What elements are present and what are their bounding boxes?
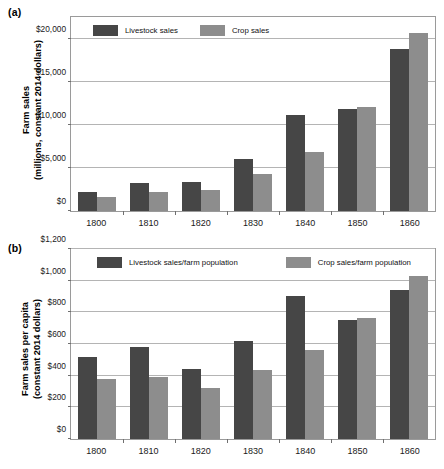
panel-b-y-axis-title-line2: (constant 2014 dollars): [31, 254, 43, 444]
panel-a-x-axis-labels: 1800181018201830184018501860: [70, 218, 436, 228]
legend-item-crop[interactable]: Crop sales/farm population: [286, 257, 411, 268]
legend-swatch-icon: [286, 257, 311, 268]
bar-crop-1860[interactable]: [409, 33, 428, 211]
x-axis-tick-label: 1810: [122, 218, 174, 228]
legend-swatch-icon: [97, 257, 122, 268]
bar-crop-1830[interactable]: [253, 174, 272, 211]
x-axis-tick-label: 1830: [227, 446, 279, 456]
bar-group: [227, 17, 279, 211]
panel-a: (a) Farm sales (millions, constant 2014 …: [0, 0, 444, 236]
bar-group: [227, 249, 279, 439]
bar-group: [279, 17, 331, 211]
legend-label: Livestock sales: [125, 26, 178, 35]
x-axis-tick-label: 1850: [331, 446, 383, 456]
y-axis-tick-label: $5,000: [41, 153, 66, 163]
legend-item-crop[interactable]: Crop sales: [200, 25, 269, 36]
bar-livestock-1860[interactable]: [390, 49, 409, 211]
bar-livestock-1840[interactable]: [286, 115, 305, 211]
x-axis-tick-label: 1820: [175, 218, 227, 228]
bar-crop-1800[interactable]: [97, 379, 116, 439]
legend-swatch-icon: [93, 25, 118, 36]
x-axis-tick-label: 1830: [227, 218, 279, 228]
y-axis-tick-label: $0: [57, 424, 66, 434]
bar-group: [123, 249, 175, 439]
bar-crop-1800[interactable]: [97, 197, 116, 211]
panel-a-plot: $0$5,000$10,000$15,000$20,000 Livestock …: [70, 16, 436, 212]
bar-group: [123, 17, 175, 211]
x-axis-tick-label: 1850: [331, 218, 383, 228]
y-axis-tick-label: $600: [48, 329, 66, 339]
legend-swatch-icon: [200, 25, 225, 36]
legend-item-livestock[interactable]: Livestock sales: [93, 25, 178, 36]
bar-crop-1850[interactable]: [357, 107, 376, 211]
panel-b-plot: $0$200$400$600$800$1,000$1,200 Livestock…: [70, 248, 436, 440]
x-axis-tick-label: 1800: [70, 446, 122, 456]
bar-livestock-1850[interactable]: [338, 320, 357, 439]
x-axis-tick-label: 1810: [122, 446, 174, 456]
bar-crop-1820[interactable]: [201, 190, 220, 211]
panel-b-y-axis-title: Farm sales per capita (constant 2014 dol…: [19, 254, 43, 444]
x-axis-tick-label: 1820: [175, 446, 227, 456]
bar-crop-1840[interactable]: [305, 152, 324, 211]
panel-a-y-axis-title-line1: Farm sales: [20, 15, 32, 205]
panel-a-bars: [71, 17, 435, 211]
bar-crop-1810[interactable]: [149, 377, 168, 439]
bar-crop-1810[interactable]: [149, 192, 168, 211]
panel-a-plot-area: $0$5,000$10,000$15,000$20,000 Livestock …: [70, 16, 436, 212]
bar-crop-1830[interactable]: [253, 370, 272, 439]
x-axis-tick-label: 1840: [279, 446, 331, 456]
panel-b-plot-area: $0$200$400$600$800$1,000$1,200 Livestock…: [70, 248, 436, 440]
legend-label: Livestock sales/farm population: [129, 258, 238, 267]
bar-group: [175, 17, 227, 211]
bar-group: [383, 17, 435, 211]
bar-group: [71, 249, 123, 439]
bar-livestock-1860[interactable]: [390, 290, 409, 439]
bar-livestock-1810[interactable]: [130, 183, 149, 211]
panel-a-legend: Livestock salesCrop sales: [93, 25, 269, 36]
y-axis-tick-label: $0: [57, 196, 66, 206]
bar-group: [331, 17, 383, 211]
bar-livestock-1800[interactable]: [78, 192, 97, 211]
bar-crop-1820[interactable]: [201, 388, 220, 439]
y-axis-tick-label: $1,000: [41, 266, 66, 276]
y-axis-tick-label: $200: [48, 392, 66, 402]
bar-group: [279, 249, 331, 439]
bar-group: [383, 249, 435, 439]
bar-crop-1850[interactable]: [357, 318, 376, 439]
x-axis-tick-label: 1840: [279, 218, 331, 228]
panel-b: (b) Farm sales per capita (constant 2014…: [0, 236, 444, 469]
bar-group: [175, 249, 227, 439]
panel-b-bars: [71, 249, 435, 439]
y-axis-tick-label: $800: [48, 297, 66, 307]
panel-b-label: (b): [8, 242, 22, 254]
figure-farm-sales: (a) Farm sales (millions, constant 2014 …: [0, 0, 444, 469]
bar-group: [331, 249, 383, 439]
panel-b-legend: Livestock sales/farm populationCrop sale…: [97, 257, 411, 268]
x-axis-tick-label: 1860: [384, 218, 436, 228]
legend-label: Crop sales: [232, 26, 269, 35]
bar-crop-1840[interactable]: [305, 350, 324, 439]
bar-livestock-1840[interactable]: [286, 296, 305, 439]
y-axis-tick-label: $10,000: [36, 110, 66, 120]
y-axis-tick-label: $400: [48, 361, 66, 371]
legend-item-livestock[interactable]: Livestock sales/farm population: [97, 257, 238, 268]
panel-b-y-axis-title-line1: Farm sales per capita: [19, 254, 31, 444]
bar-livestock-1800[interactable]: [78, 357, 97, 439]
bar-livestock-1850[interactable]: [338, 109, 357, 211]
bar-livestock-1830[interactable]: [234, 341, 253, 439]
y-axis-tick-label: $15,000: [36, 67, 66, 77]
x-axis-tick-label: 1860: [384, 446, 436, 456]
y-axis-tick-label: $1,200: [41, 234, 66, 244]
panel-b-x-axis-labels: 1800181018201830184018501860: [70, 446, 436, 456]
bar-livestock-1810[interactable]: [130, 347, 149, 439]
y-axis-tick-label: $20,000: [36, 24, 66, 34]
bar-group: [71, 17, 123, 211]
legend-label: Crop sales/farm population: [318, 258, 411, 267]
bar-crop-1860[interactable]: [409, 276, 428, 439]
bar-livestock-1830[interactable]: [234, 159, 253, 211]
x-axis-tick-label: 1800: [70, 218, 122, 228]
bar-livestock-1820[interactable]: [182, 369, 201, 439]
bar-livestock-1820[interactable]: [182, 182, 201, 211]
